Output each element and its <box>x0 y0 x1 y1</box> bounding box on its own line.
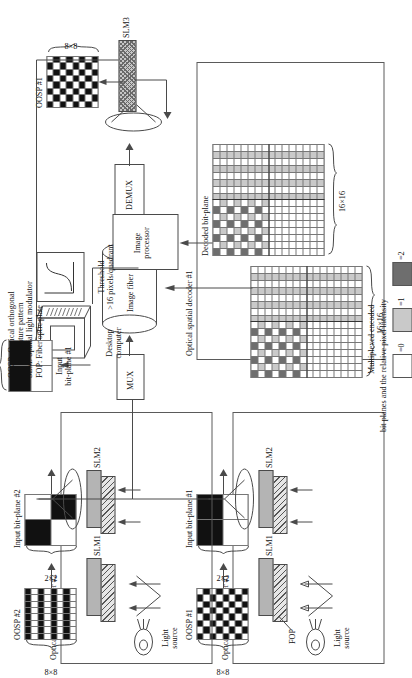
grid-cell <box>265 267 271 273</box>
grid-cell <box>220 159 226 165</box>
grid-cell <box>327 371 333 377</box>
grid-cell <box>57 621 62 626</box>
grid-cell <box>251 267 257 273</box>
grid-cell <box>334 357 340 363</box>
grid-cell <box>258 350 264 356</box>
grid-cell <box>70 621 75 626</box>
grid-cell <box>313 295 319 301</box>
grid-cell <box>341 267 347 273</box>
grid-cell <box>25 615 30 620</box>
grid-cell <box>234 166 240 172</box>
grid-cell <box>320 267 326 273</box>
grid-cell <box>44 595 49 600</box>
grid-cell <box>320 309 326 315</box>
grid-cell <box>334 302 340 308</box>
grid-cell <box>279 371 285 377</box>
abbreviations-legend: OOSP: Optical orthogonal signature patte… <box>6 281 43 378</box>
grid-cell <box>220 145 226 151</box>
grid-cell <box>227 145 233 151</box>
encoder1-light-source-icon <box>300 618 330 658</box>
grid-cell <box>313 323 319 329</box>
grid-cell <box>220 152 226 158</box>
grid-cell <box>279 329 285 335</box>
decoded-bitplane-wrap <box>212 144 324 256</box>
grid-cell <box>348 267 354 273</box>
grid-cell <box>327 288 333 294</box>
grid-cell <box>251 336 257 342</box>
grid-cell <box>38 627 43 632</box>
grid-cell <box>341 274 347 280</box>
grid-cell <box>317 152 323 158</box>
grid-cell <box>51 589 56 594</box>
grid-cell <box>293 323 299 329</box>
grid-cell <box>341 323 347 329</box>
grid-cell <box>248 187 254 193</box>
grid-cell <box>220 228 226 234</box>
grid-cell <box>310 214 316 220</box>
grid-cell <box>334 274 340 280</box>
grid-cell <box>310 187 316 193</box>
grid-cell <box>296 221 302 227</box>
grid-cell <box>242 608 247 613</box>
grid-cell <box>248 221 254 227</box>
grid-cell <box>320 274 326 280</box>
grid-cell <box>293 357 299 363</box>
grid-cell <box>234 159 240 165</box>
grid-cell <box>234 173 240 179</box>
grid-cell <box>310 249 316 255</box>
grid-cell <box>213 159 219 165</box>
grid-cell <box>234 207 240 213</box>
grid-cell <box>241 145 247 151</box>
grid-cell <box>300 350 306 356</box>
grid-cell <box>57 627 62 632</box>
grid-cell <box>25 595 30 600</box>
grid-cell <box>348 350 354 356</box>
grid-cell <box>255 201 261 207</box>
intensity-swatch-2 <box>392 262 412 286</box>
grid-cell <box>282 207 288 213</box>
grid-cell <box>313 336 319 342</box>
grid-cell <box>272 288 278 294</box>
grid-cell <box>235 608 240 613</box>
grid-cell <box>320 288 326 294</box>
grid-cell <box>227 180 233 186</box>
grid-cell <box>293 281 299 287</box>
grid-cell <box>275 180 281 186</box>
grid-cell <box>248 152 254 158</box>
grid-cell <box>213 201 219 207</box>
grid-cell <box>265 274 271 280</box>
grid-cell <box>320 336 326 342</box>
grid-cell <box>275 221 281 227</box>
grid-cell <box>216 602 221 607</box>
grid-cell <box>286 364 292 370</box>
grid-cell <box>275 228 281 234</box>
grid-cell <box>265 357 271 363</box>
grid-cell <box>44 621 49 626</box>
grid-cell <box>227 187 233 193</box>
grid-cell <box>313 288 319 294</box>
grid-cell <box>262 228 268 234</box>
grid-cell <box>334 350 340 356</box>
grid-cell <box>213 145 219 151</box>
grid-cell <box>348 288 354 294</box>
grid-cell <box>310 242 316 248</box>
grid-cell <box>317 159 323 165</box>
grid-cell <box>334 364 340 370</box>
grid-cell <box>25 608 30 613</box>
grid-cell <box>320 295 326 301</box>
grid-cell <box>341 281 347 287</box>
grid-cell <box>31 589 36 594</box>
grid-cell <box>63 608 68 613</box>
grid-cell <box>70 608 75 613</box>
grid-cell <box>310 145 316 151</box>
grid-cell <box>275 242 281 248</box>
grid-cell <box>251 302 257 308</box>
grid-cell <box>334 343 340 349</box>
grid-cell <box>275 201 281 207</box>
grid-cell <box>262 249 268 255</box>
encoder2-fop-slab <box>100 564 115 622</box>
grid-cell <box>38 608 43 613</box>
encoder1-beam-spread <box>292 572 338 618</box>
grid-cell <box>241 159 247 165</box>
